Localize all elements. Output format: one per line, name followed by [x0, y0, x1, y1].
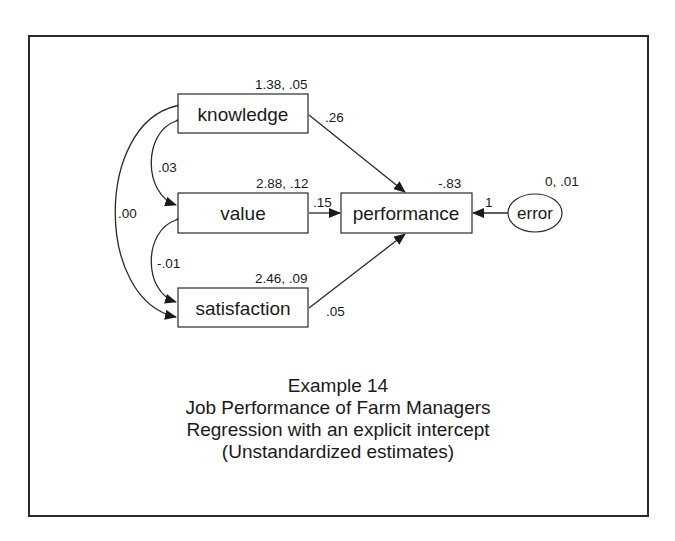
node-satisfaction-label: satisfaction — [195, 298, 290, 319]
node-value-label: value — [220, 203, 265, 224]
diagram-caption: Example 14 Job Performance of Farm Manag… — [185, 375, 490, 462]
node-performance: performance -.83 — [341, 176, 472, 233]
node-knowledge: knowledge 1.38, .05 — [178, 77, 308, 133]
covariance-label-knowledge-satisfaction: .00 — [118, 206, 137, 221]
path-arrow-knowledge-performance — [309, 115, 405, 192]
path-weight-value-performance: .15 — [313, 195, 332, 210]
path-weight-error-performance: 1 — [485, 195, 493, 210]
caption-line-2: Job Performance of Farm Managers — [185, 397, 490, 418]
node-performance-params: -.83 — [438, 176, 461, 191]
node-satisfaction-params: 2.46, .09 — [255, 271, 308, 286]
node-performance-label: performance — [353, 203, 460, 224]
node-error: error 0, .01 — [508, 174, 579, 232]
node-error-params: 0, .01 — [545, 174, 579, 189]
caption-line-4: (Unstandardized estimates) — [222, 441, 454, 462]
path-weight-knowledge-performance: .26 — [325, 110, 344, 125]
node-value-params: 2.88, .12 — [256, 176, 309, 191]
node-value: value 2.88, .12 — [178, 176, 309, 233]
node-knowledge-params: 1.38, .05 — [255, 77, 308, 92]
node-error-label: error — [517, 204, 553, 223]
path-weight-satisfaction-performance: .05 — [326, 304, 345, 319]
covariance-label-knowledge-value: .03 — [158, 160, 177, 175]
caption-line-1: Example 14 — [288, 375, 389, 396]
caption-line-3: Regression with an explicit intercept — [186, 419, 490, 440]
node-satisfaction: satisfaction 2.46, .09 — [178, 271, 308, 327]
path-diagram: .00 .03 -.01 .26 .15 .05 1 knowledge 1.3… — [0, 0, 675, 541]
path-arrow-satisfaction-performance — [309, 234, 405, 308]
node-knowledge-label: knowledge — [198, 104, 289, 125]
covariance-label-value-satisfaction: -.01 — [157, 256, 180, 271]
